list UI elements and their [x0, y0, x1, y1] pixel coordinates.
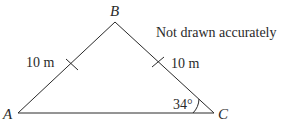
- diagram-svg: B A C 10 m 10 m 34° Not drawn accurately: [0, 0, 294, 121]
- side-ab-length-label: 10 m: [26, 55, 55, 70]
- angle-arc-c: [193, 99, 199, 113]
- vertex-label-b: B: [110, 3, 119, 19]
- side-bc-length-label: 10 m: [171, 56, 200, 71]
- triangle-diagram: B A C 10 m 10 m 34° Not drawn accurately: [0, 0, 294, 121]
- angle-c-label: 34°: [173, 97, 193, 112]
- not-drawn-accurately-note: Not drawn accurately: [156, 25, 277, 40]
- vertex-label-c: C: [218, 106, 229, 121]
- vertex-label-a: A: [2, 106, 13, 121]
- tick-mark-ab: [66, 59, 78, 70]
